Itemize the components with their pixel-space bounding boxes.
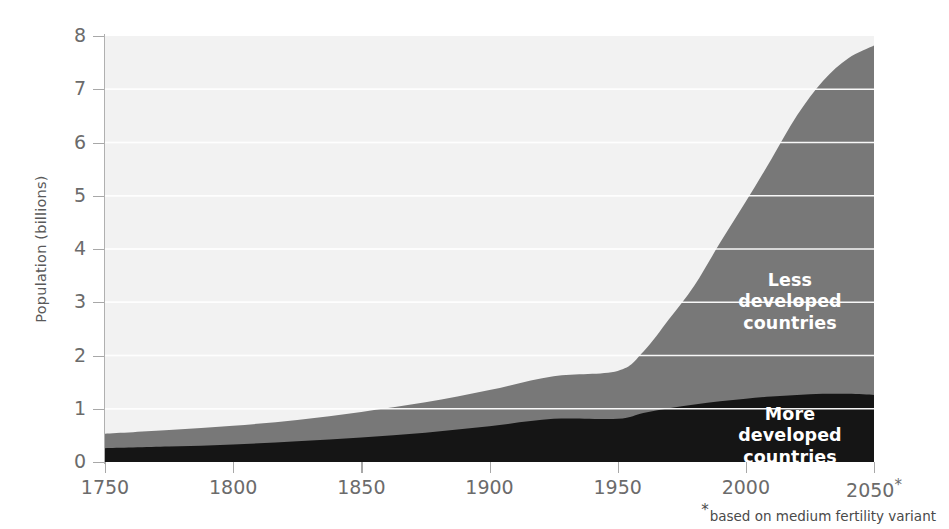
- y-axis-tick-labels: 876543210: [60, 0, 86, 529]
- y-tick-label: 8: [60, 26, 86, 45]
- stacked-area-svg: [105, 36, 874, 462]
- x-tick-mark: [746, 462, 747, 473]
- footnote-marker-icon: *: [701, 501, 709, 519]
- x-tick-label: 1950: [583, 478, 653, 497]
- population-area-chart: Population (billions) 876543210 Less dev…: [0, 0, 949, 529]
- x-tick-mark: [874, 462, 875, 473]
- x-tick-label: 1850: [326, 478, 396, 497]
- x-tick-label: 2000: [711, 478, 781, 497]
- x-tick-label: 1800: [198, 478, 268, 497]
- x-tick-mark: [490, 462, 491, 473]
- x-tick-label: 1900: [455, 478, 525, 497]
- x-tick-label-text: 1750: [81, 476, 129, 498]
- x-tick-mark: [361, 462, 362, 473]
- x-tick-label-text: 1800: [209, 476, 257, 498]
- x-tick-mark: [233, 462, 234, 473]
- x-tick-mark: [618, 462, 619, 473]
- footnote-text: based on medium fertility variant: [710, 508, 936, 524]
- y-tick-label: 3: [60, 292, 86, 311]
- y-axis-title: Population (billions): [28, 36, 54, 462]
- y-tick-label: 6: [60, 133, 86, 152]
- x-tick-footnote-marker-icon: *: [894, 476, 902, 494]
- x-tick-label: 1750: [70, 478, 140, 497]
- y-tick-label: 2: [60, 346, 86, 365]
- series-label-less-developed: Less developed countries: [722, 270, 858, 334]
- footnote: *based on medium fertility variant: [600, 501, 936, 524]
- y-tick-label: 0: [60, 452, 86, 471]
- y-tick-label: 7: [60, 79, 86, 98]
- y-tick-label: 5: [60, 186, 86, 205]
- y-axis-title-text: Population (billions): [33, 175, 49, 322]
- x-tick-label-text: 1850: [337, 476, 385, 498]
- x-tick-label-text: 2000: [722, 476, 770, 498]
- x-tick-label-text: 1900: [465, 476, 513, 498]
- series-label-more-developed: More developed countries: [718, 404, 862, 462]
- y-tick-label: 4: [60, 239, 86, 258]
- x-tick-mark: [105, 462, 106, 473]
- x-tick-label: 2050*: [839, 478, 909, 500]
- x-tick-label-text: 2050: [846, 479, 894, 501]
- x-tick-label-text: 1950: [593, 476, 641, 498]
- plot-area: Less developed countries More developed …: [105, 36, 874, 462]
- y-tick-label: 1: [60, 399, 86, 418]
